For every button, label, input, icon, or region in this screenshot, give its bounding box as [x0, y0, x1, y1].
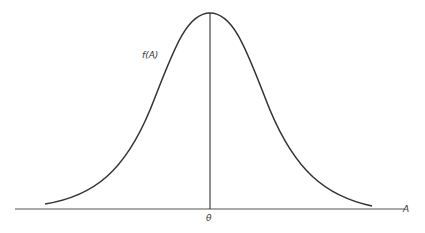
density-curve — [45, 13, 372, 206]
curve-label: f(A) — [142, 50, 158, 60]
axis-label: A — [403, 204, 409, 214]
bell-curve-diagram — [0, 0, 425, 233]
center-label: θ — [206, 213, 212, 223]
